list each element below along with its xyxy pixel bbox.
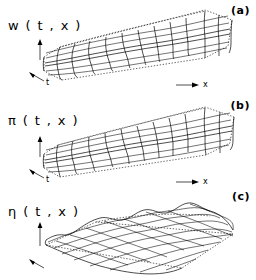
left-cap-b: [43, 154, 44, 168]
vertical-axis-arrow-c: [38, 222, 43, 246]
panel-a: w ( t , x ) (a): [0, 0, 256, 95]
surface-plot-a: [0, 0, 256, 95]
figure-container: w ( t , x ) (a): [0, 0, 256, 280]
left-cap-c: [45, 240, 46, 245]
t-axis-label-b: t: [46, 175, 49, 184]
iso-x-ribs-a: [57, 11, 232, 80]
x-axis-arrow-b: [176, 180, 199, 185]
iso-x-ribs-b: [57, 108, 235, 177]
surface-outline-dotted-a: [44, 10, 232, 80]
t-axis-arrow-a: [29, 72, 44, 81]
t-axis-label-a: t: [46, 78, 49, 87]
surface-silhouette-c: [46, 203, 233, 240]
vertical-axis-arrow-a: [38, 39, 43, 60]
mesh-diagonal-2-c: [48, 208, 233, 272]
x-axis-label-a: x: [203, 80, 208, 89]
x-axis-label-b: x: [203, 177, 208, 186]
mesh-diagonal-1-c: [56, 204, 233, 265]
x-axis-arrow-a: [176, 83, 199, 88]
surface-plot-b: [0, 95, 256, 190]
surface-plot-c: [0, 190, 256, 280]
panel-b: π ( t , x ) (b): [0, 95, 256, 190]
back-edge-a: [60, 11, 205, 47]
t-axis-arrow-c: [29, 259, 44, 268]
t-axis-arrow-b: [29, 169, 44, 178]
panel-c: η ( t , x ) (c): [0, 190, 256, 280]
vertical-axis-arrow-b: [38, 136, 43, 157]
